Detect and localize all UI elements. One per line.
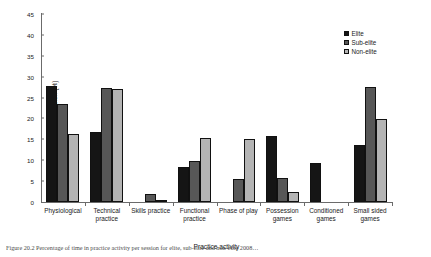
x-axis-category-label: Functional practice [173,207,217,223]
x-axis-category-label: Possession games [260,207,304,223]
bar-group [173,14,217,202]
y-axis-tick-label: 15 [0,136,39,143]
bar-non[interactable] [112,89,123,202]
bar-group [85,14,129,202]
y-axis-tick-label: 30 [0,73,39,80]
x-axis-category-label: Technical practice [85,207,129,223]
bar-group-bars [260,14,304,202]
bar-sub[interactable] [101,88,112,202]
y-axis-tick-label: 45 [0,11,39,18]
x-axis-tick-mark [85,202,86,206]
bar-group [41,14,85,202]
legend-swatch-elite-icon [344,31,349,36]
plot-area [41,14,391,202]
bar-group [217,14,261,202]
bar-non[interactable] [156,200,167,202]
legend-item-sub-elite[interactable]: Sub-elite [344,38,377,47]
y-axis-tick-label: 35 [0,52,39,59]
bar-elite[interactable] [310,163,321,202]
bar-elite[interactable] [90,132,101,202]
legend-label-elite: Elite [352,30,364,37]
bar-sub[interactable] [57,104,68,202]
legend-item-non-elite[interactable]: Non-elite [344,47,377,56]
bar-elite[interactable] [354,145,365,202]
bar-sub[interactable] [277,178,288,202]
bar-elite[interactable] [178,167,189,203]
bar-group [304,14,348,202]
legend-item-elite[interactable]: Elite [344,29,377,38]
bar-group-bars [41,14,85,202]
x-axis-tick-mark [129,202,130,206]
y-axis-tick-label: 20 [0,115,39,122]
y-axis-tick-label: 0 [0,199,39,206]
legend: Elite Sub-elite Non-elite [344,29,377,56]
bar-elite[interactable] [266,136,277,202]
x-axis-tick-mark [348,202,349,206]
bar-group [129,14,173,202]
bar-sub[interactable] [189,161,200,202]
figure-container: 051015202530354045 Time per session (%) … [0,0,431,257]
bar-non[interactable] [68,134,79,202]
x-axis-tick-mark [304,202,305,206]
legend-label-sub-elite: Sub-elite [352,39,377,46]
bar-group-bars [129,14,173,202]
bar-group [260,14,304,202]
bar-group-bars [304,14,348,202]
legend-swatch-non-elite-icon [344,49,349,54]
bar-sub[interactable] [233,179,244,202]
legend-label-non-elite: Non-elite [352,48,377,55]
y-axis-tick-label: 5 [0,178,39,185]
bar-elite[interactable] [46,86,57,202]
bar-group-bars [173,14,217,202]
x-axis-tick-mark [392,202,393,206]
bar-non[interactable] [244,139,255,202]
x-axis-category-label: Phase of play [217,207,261,215]
y-axis-tick-label: 40 [0,31,39,38]
x-axis-tick-mark [217,202,218,206]
y-axis-tick-label: 25 [0,94,39,101]
bar-non[interactable] [288,192,299,202]
bar-sub[interactable] [365,87,376,202]
bar-group-bars [85,14,129,202]
bar-group-bars [217,14,261,202]
bar-sub[interactable] [145,194,156,202]
x-axis-category-label: Physiological [41,207,85,215]
figure-caption: Figure 20.2 Percentage of time in practi… [6,244,426,251]
bar-non[interactable] [200,138,211,202]
x-axis-tick-mark [173,202,174,206]
bar-non[interactable] [376,119,387,202]
x-axis-category-label: Skills practice [129,207,173,215]
x-axis-tick-mark [260,202,261,206]
x-axis-category-label: Conditioned games [304,207,348,223]
x-axis-category-label: Small sided games [348,207,392,223]
legend-swatch-sub-elite-icon [344,40,349,45]
y-axis-tick-label: 10 [0,157,39,164]
